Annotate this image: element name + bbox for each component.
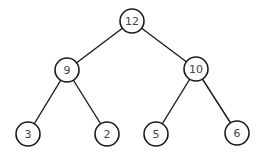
node-label: 12 (125, 15, 139, 28)
tree-node-10: 10 (184, 57, 208, 81)
tree-node-2: 2 (95, 122, 119, 146)
nodes-group: 129103256 (16, 9, 249, 146)
tree-node-6: 6 (225, 121, 249, 145)
node-label: 5 (153, 128, 160, 141)
tree-node-5: 5 (144, 122, 168, 146)
tree-node-9: 9 (55, 58, 79, 82)
node-label: 3 (25, 128, 32, 141)
binary-tree-diagram: 129103256 (0, 0, 261, 162)
node-label: 6 (234, 127, 241, 140)
tree-node-3: 3 (16, 122, 40, 146)
node-label: 10 (189, 63, 203, 76)
node-label: 2 (104, 128, 111, 141)
node-label: 9 (64, 64, 71, 77)
tree-node-12: 12 (120, 9, 144, 33)
